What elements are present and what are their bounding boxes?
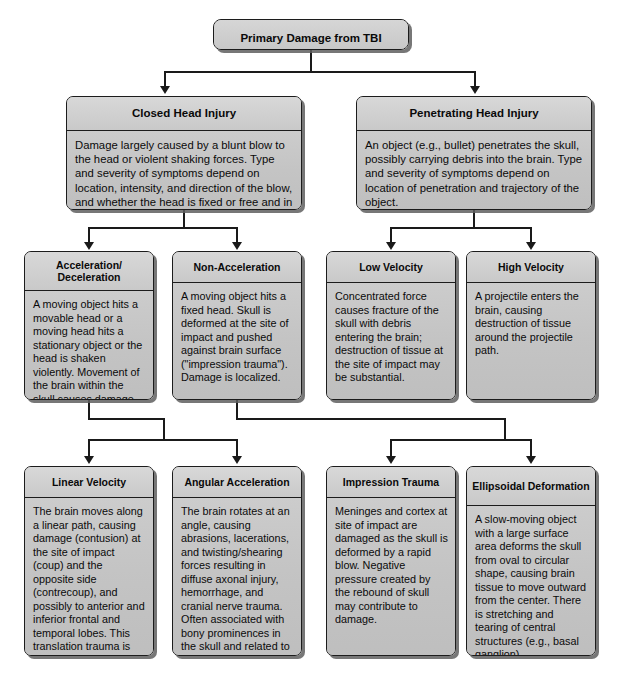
connector-accel-to-angular xyxy=(236,439,238,456)
node-title: Ellipsoidal Deformation xyxy=(467,467,595,506)
arrowhead-angular-acceleration xyxy=(232,456,242,464)
node-title: High Velocity xyxy=(467,252,595,283)
connector-accel-to-linear xyxy=(88,439,90,456)
diagram-canvas: Primary Damage from TBI Closed Head Inju… xyxy=(0,0,618,677)
connector-nonaccel-bus xyxy=(390,439,532,441)
node-low-velocity[interactable]: Low Velocity Concentrated force causes f… xyxy=(326,251,456,400)
node-body: Concentrated force causes fracture of th… xyxy=(327,283,455,400)
node-angular-acceleration[interactable]: Angular Acceleration The brain rotates a… xyxy=(172,466,302,656)
connector-nonaccel-jog xyxy=(236,418,506,420)
node-non-acceleration[interactable]: Non-Acceleration A moving object hits a … xyxy=(172,251,302,400)
connector-accel-bus xyxy=(88,439,238,441)
connector-penetrating-bus xyxy=(390,227,532,229)
connector-closed-stem xyxy=(183,210,185,228)
connector-closed-bus xyxy=(88,227,238,229)
connector-root-to-closed xyxy=(164,71,166,87)
node-title: Angular Acceleration xyxy=(173,467,301,498)
node-title: Closed Head Injury xyxy=(67,97,301,131)
node-impression-trauma[interactable]: Impression Trauma Meninges and cortex at… xyxy=(326,466,456,656)
connector-root-bus xyxy=(164,71,476,73)
connector-nonaccel-to-ellips xyxy=(530,439,532,456)
node-linear-velocity[interactable]: Linear Velocity The brain moves along a … xyxy=(24,466,154,656)
node-body: Meninges and cortex at site of impact ar… xyxy=(327,498,455,656)
node-title: Acceleration/ Deceleration xyxy=(25,252,153,291)
arrowhead-low-velocity xyxy=(386,242,396,250)
node-body: The brain rotates at an angle, causing a… xyxy=(173,498,301,656)
node-body: A projectile enters the brain, causing d… xyxy=(467,283,595,400)
arrowhead-linear-velocity xyxy=(84,456,94,464)
node-title: Impression Trauma xyxy=(327,467,455,498)
node-title: Low Velocity xyxy=(327,252,455,283)
connector-penetrating-to-lowvel xyxy=(390,227,392,243)
node-title: Primary Damage from TBI xyxy=(214,20,408,50)
connector-nonaccel-to-impress xyxy=(390,439,392,456)
node-primary-damage-from-tbi[interactable]: Primary Damage from TBI xyxy=(213,19,409,50)
node-body: A slow-moving object with a large surfac… xyxy=(467,506,595,656)
connector-accel-stem xyxy=(88,400,90,419)
arrowhead-non-acceleration xyxy=(232,242,242,250)
arrowhead-closed-head-injury xyxy=(160,86,170,94)
node-penetrating-head-injury[interactable]: Penetrating Head Injury An object (e.g.,… xyxy=(356,96,592,210)
connector-root-stem xyxy=(310,50,312,72)
node-title: Non-Acceleration xyxy=(173,252,301,283)
arrowhead-acceleration-deceleration xyxy=(84,242,94,250)
arrowhead-high-velocity xyxy=(526,242,536,250)
node-title: Penetrating Head Injury xyxy=(357,97,591,131)
node-body: A moving object hits a movable head or a… xyxy=(25,291,153,400)
node-title: Linear Velocity xyxy=(25,467,153,498)
node-body: A moving object hits a fixed head. Skull… xyxy=(173,283,301,400)
node-body: An object (e.g., bullet) penetrates the … xyxy=(357,131,591,210)
connector-accel-jog xyxy=(88,418,165,420)
node-closed-head-injury[interactable]: Closed Head Injury Damage largely caused… xyxy=(66,96,302,210)
arrowhead-ellipsoidal-deformation xyxy=(526,456,536,464)
connector-penetrating-stem xyxy=(473,210,475,228)
arrowhead-penetrating-head-injury xyxy=(470,86,480,94)
connector-closed-to-accel xyxy=(88,227,90,243)
arrowhead-impression-trauma xyxy=(386,456,396,464)
connector-accel-drop xyxy=(163,418,165,440)
connector-penetrating-to-highvel xyxy=(530,227,532,243)
connector-closed-to-nonaccel xyxy=(236,227,238,243)
node-body: The brain moves along a linear path, cau… xyxy=(25,498,153,656)
node-body: Damage largely caused by a blunt blow to… xyxy=(67,131,301,210)
node-ellipsoidal-deformation[interactable]: Ellipsoidal Deformation A slow-moving ob… xyxy=(466,466,596,656)
connector-nonaccel-stem xyxy=(236,400,238,419)
connector-root-to-penetrating xyxy=(474,71,476,87)
node-acceleration-deceleration[interactable]: Acceleration/ Deceleration A moving obje… xyxy=(24,251,154,400)
node-high-velocity[interactable]: High Velocity A projectile enters the br… xyxy=(466,251,596,400)
connector-nonaccel-drop xyxy=(504,418,506,440)
